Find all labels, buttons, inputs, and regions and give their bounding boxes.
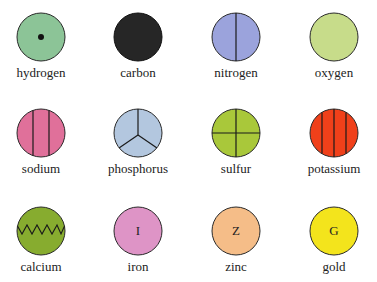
element-oxygen: oxygen — [285, 12, 377, 102]
element-label: oxygen — [285, 65, 377, 81]
element-nitrogen: nitrogen — [187, 12, 283, 102]
phosphorus-symbol-icon — [113, 108, 163, 158]
carbon-symbol-icon — [113, 12, 163, 62]
element-label: zinc — [187, 259, 285, 275]
potassium-symbol-icon — [309, 108, 359, 158]
element-iron: I iron — [89, 206, 185, 282]
symbol-letter: G — [309, 223, 359, 239]
element-sodium: sodium — [0, 108, 88, 198]
element-label: hydrogen — [0, 65, 90, 81]
element-potassium: potassium — [285, 108, 377, 198]
element-label: calcium — [0, 259, 90, 275]
element-label: carbon — [89, 65, 187, 81]
element-label: potassium — [285, 161, 377, 177]
element-label: nitrogen — [187, 65, 285, 81]
element-sulfur: sulfur — [187, 108, 283, 198]
element-zinc: Z zinc — [187, 206, 283, 282]
sulfur-symbol-icon — [211, 108, 261, 158]
element-label: phosphorus — [89, 161, 187, 177]
calcium-symbol-icon — [16, 206, 66, 256]
element-carbon: carbon — [89, 12, 185, 102]
hydrogen-symbol-icon — [16, 12, 66, 62]
element-label: iron — [89, 259, 187, 275]
element-hydrogen: hydrogen — [0, 12, 88, 102]
element-label: sulfur — [187, 161, 285, 177]
oxygen-symbol-icon — [309, 12, 359, 62]
symbol-letter: Z — [211, 223, 261, 239]
element-label: gold — [285, 259, 377, 275]
nitrogen-symbol-icon — [211, 12, 261, 62]
sodium-symbol-icon — [16, 108, 66, 158]
element-label: sodium — [0, 161, 90, 177]
symbol-letter: I — [113, 223, 163, 239]
element-calcium: calcium — [0, 206, 88, 282]
element-phosphorus: phosphorus — [89, 108, 185, 198]
element-gold: G gold — [285, 206, 377, 282]
